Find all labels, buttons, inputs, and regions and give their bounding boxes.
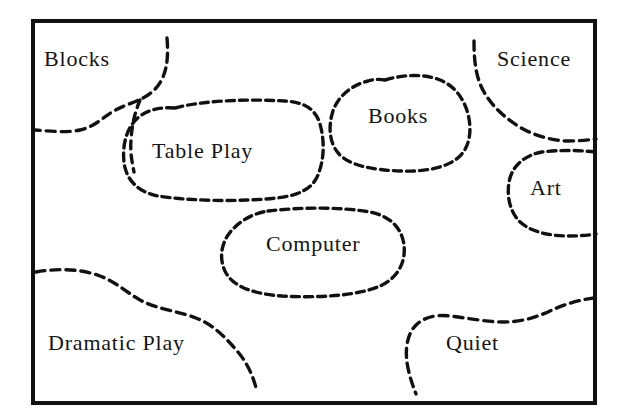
classroom-floorplan-diagram: Blocks Table Play Books Science Art Comp… (0, 0, 633, 419)
area-label-quiet: Quiet (446, 332, 499, 354)
area-label-computer: Computer (266, 233, 360, 255)
area-label-books: Books (368, 105, 428, 127)
area-label-dramatic-play: Dramatic Play (48, 332, 185, 354)
area-label-art: Art (530, 177, 562, 199)
area-label-blocks: Blocks (44, 48, 110, 70)
area-label-table-play: Table Play (152, 140, 253, 162)
area-label-science: Science (497, 48, 571, 70)
